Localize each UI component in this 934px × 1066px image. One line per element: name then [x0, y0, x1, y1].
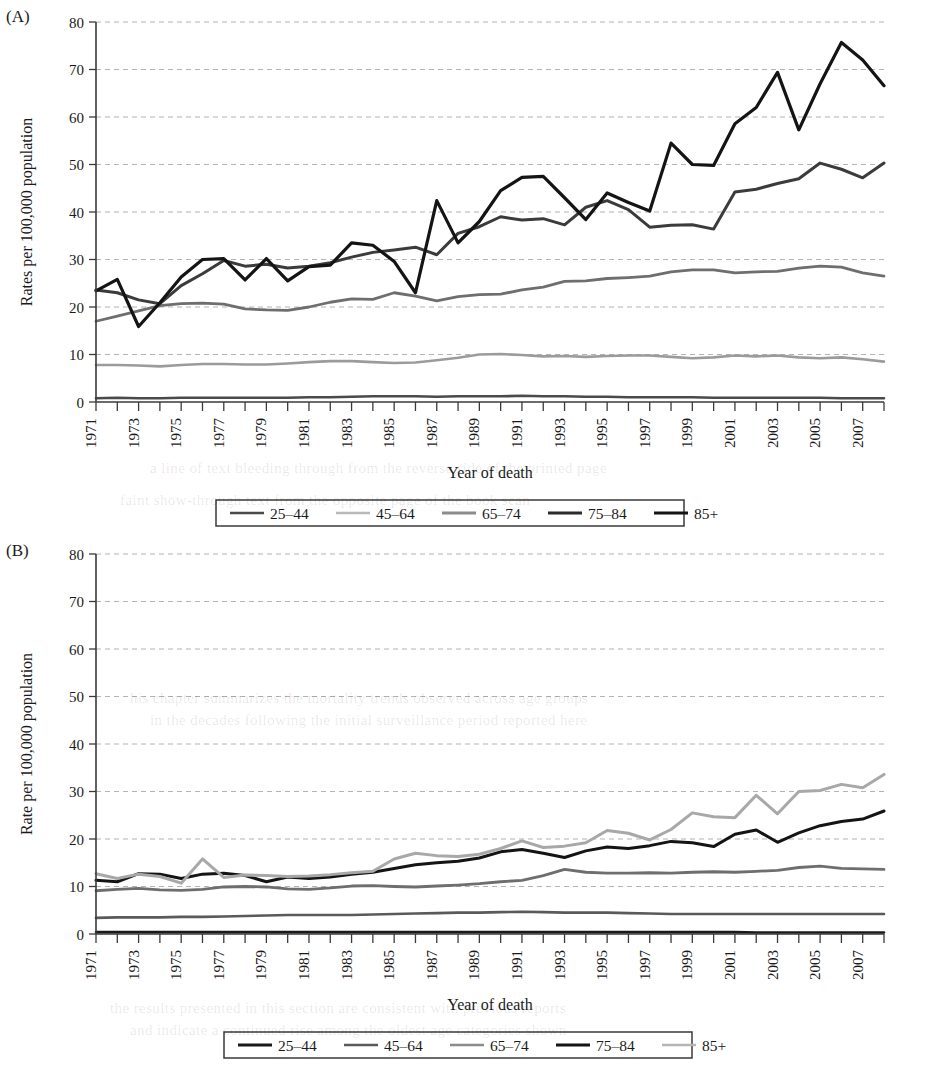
x-tick-label: 1977 [211, 417, 227, 448]
y-tick-label: 70 [69, 62, 84, 78]
x-tick-label: 1999 [679, 950, 695, 980]
x-tick-label: 2003 [765, 950, 781, 980]
x-tick-label: 1983 [339, 418, 355, 448]
x-tick-label: 2005 [807, 418, 823, 448]
series-line-85+ [96, 774, 884, 883]
panel-a: (A)0102030405060708019711973197519771979… [0, 0, 934, 536]
x-tick-label: 1995 [594, 418, 610, 448]
legend-label-85+: 85+ [702, 1037, 726, 1054]
x-tick-label: 1987 [424, 418, 440, 449]
x-tick-label: 1981 [296, 418, 312, 448]
series-line-25-44 [96, 396, 884, 398]
legend-label-75-84: 75–84 [588, 505, 627, 522]
x-tick-label: 1985 [381, 950, 397, 980]
panel-b-chart: (B)0102030405060708019711973197519771979… [0, 536, 934, 1066]
series-line-65-74 [96, 266, 884, 321]
x-tick-label: 1983 [339, 950, 355, 980]
x-axis-title: Year of death [447, 996, 532, 1013]
y-tick-label: 20 [69, 300, 84, 316]
x-tick-label: 1979 [253, 418, 269, 448]
x-tick-label: 1991 [509, 418, 525, 448]
legend-label-45-64: 45–64 [376, 505, 415, 522]
x-tick-label: 1973 [126, 950, 142, 980]
x-tick-label: 2007 [850, 949, 866, 980]
x-tick-label: 1989 [466, 418, 482, 448]
x-tick-label: 1997 [637, 418, 653, 449]
x-tick-label: 1993 [552, 418, 568, 448]
x-tick-label: 1981 [296, 950, 312, 980]
x-tick-label: 1973 [126, 418, 142, 448]
series-line-45-64 [96, 912, 884, 918]
series-line-45-64 [96, 354, 884, 366]
y-tick-label: 50 [69, 689, 84, 705]
y-tick-label: 80 [69, 547, 84, 563]
y-tick-label: 70 [69, 594, 84, 610]
legend-label-75-84: 75–84 [596, 1037, 635, 1054]
y-tick-label: 40 [69, 737, 84, 753]
x-tick-label: 1971 [83, 418, 99, 448]
x-tick-label: 1977 [211, 949, 227, 980]
legend-label-65-74: 65–74 [490, 1037, 529, 1054]
y-tick-label: 80 [69, 15, 84, 31]
legend-label-45-64: 45–64 [384, 1037, 423, 1054]
x-tick-label: 1971 [83, 950, 99, 980]
y-tick-label: 30 [69, 252, 84, 268]
panel-letter: (B) [6, 541, 29, 560]
x-tick-label: 1987 [424, 950, 440, 981]
x-tick-label: 1989 [466, 950, 482, 980]
x-tick-label: 1999 [679, 418, 695, 448]
x-axis-title: Year of death [447, 464, 532, 481]
x-tick-label: 1997 [637, 950, 653, 981]
x-tick-label: 1993 [552, 950, 568, 980]
x-tick-label: 1991 [509, 950, 525, 980]
x-tick-label: 2001 [722, 950, 738, 980]
y-tick-label: 20 [69, 832, 84, 848]
y-tick-label: 50 [69, 157, 84, 173]
series-line-75-84 [96, 163, 884, 304]
series-line-85+ [96, 42, 884, 326]
x-tick-label: 1979 [253, 950, 269, 980]
legend-label-25-44: 25–44 [270, 505, 309, 522]
panel-b: (B)0102030405060708019711973197519771979… [0, 536, 934, 1066]
y-axis-title: Rate per 100,000 population [18, 653, 36, 835]
x-tick-label: 1975 [168, 950, 184, 980]
y-tick-label: 60 [69, 110, 84, 126]
y-tick-label: 10 [69, 347, 84, 363]
y-tick-label: 40 [69, 205, 84, 221]
x-tick-label: 2001 [722, 418, 738, 448]
x-tick-label: 1985 [381, 418, 397, 448]
y-tick-label: 10 [69, 879, 84, 895]
y-axis-title: Rates per 100,000 population [18, 118, 36, 306]
x-tick-label: 2005 [807, 950, 823, 980]
y-tick-label: 60 [69, 642, 84, 658]
y-tick-label: 0 [77, 927, 85, 943]
y-tick-label: 30 [69, 784, 84, 800]
x-tick-label: 1995 [594, 950, 610, 980]
x-tick-label: 2007 [850, 417, 866, 448]
y-tick-label: 0 [77, 395, 85, 411]
legend-label-65-74: 65–74 [482, 505, 521, 522]
legend-label-85+: 85+ [694, 505, 718, 522]
legend-label-25-44: 25–44 [278, 1037, 317, 1054]
panel-a-chart: (A)0102030405060708019711973197519771979… [0, 0, 934, 536]
x-tick-label: 1975 [168, 418, 184, 448]
panel-letter: (A) [6, 7, 30, 26]
x-tick-label: 2003 [765, 418, 781, 448]
